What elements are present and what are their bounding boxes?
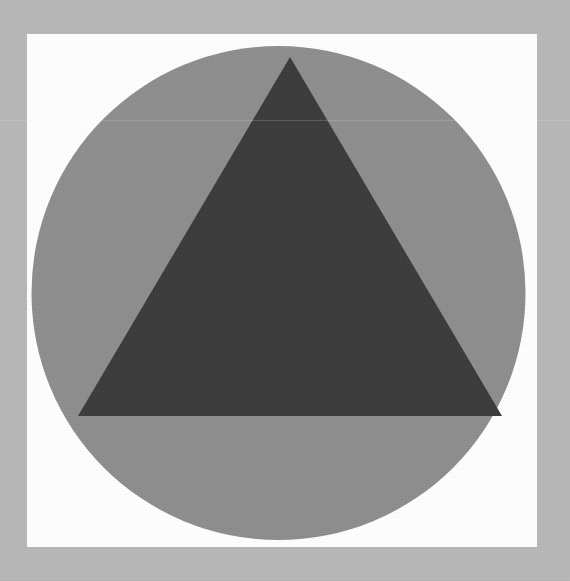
image-canvas bbox=[0, 0, 570, 581]
shape-stage bbox=[0, 0, 570, 581]
shapes-svg bbox=[0, 0, 570, 581]
